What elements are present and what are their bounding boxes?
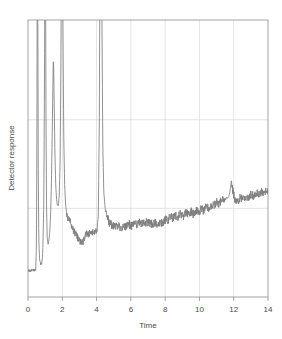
x-axis-tick-label: 14 — [264, 305, 273, 314]
x-axis-label: Time — [139, 321, 157, 330]
x-axis-tick-label: 6 — [129, 305, 134, 314]
x-axis-tick-label: 2 — [60, 305, 65, 314]
y-axis-label: Detector response — [7, 125, 16, 191]
x-axis-tick-label: 10 — [195, 305, 204, 314]
x-axis-tick-label: 8 — [163, 305, 168, 314]
x-axis-tick-label: 4 — [94, 305, 99, 314]
chromatogram-figure: 02468101214 Time Detector response — [0, 0, 282, 339]
x-axis-tick-label: 0 — [26, 305, 31, 314]
x-axis-tick-label: 12 — [229, 305, 238, 314]
